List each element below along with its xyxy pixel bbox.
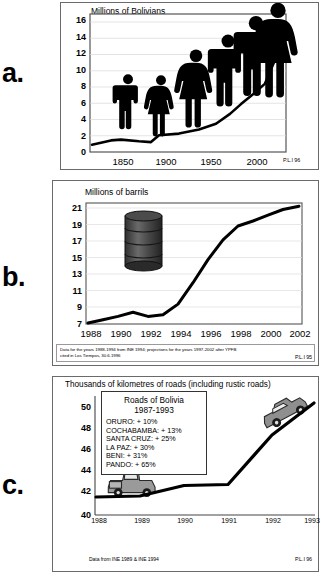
chart-a-x-ticks: 1850 1900 1950 2000 <box>112 156 267 167</box>
svg-text:1989: 1989 <box>134 517 150 524</box>
chart-c-x-ticks: 1988 1989 1990 1991 1992 1993 <box>91 517 320 524</box>
svg-text:15: 15 <box>72 253 82 263</box>
chart-b-footnote-box: Data for the years 1988-1994 from INE 19… <box>56 344 315 362</box>
inset-growth-list: ORURO: + 10% COCHABAMBA: + 13% SANTA CRU… <box>106 418 202 470</box>
svg-text:21: 21 <box>72 203 82 213</box>
chart-b-footnote-line2: cited in Los Tiempos, 30.6.1996 <box>60 353 120 359</box>
chart-b-credit: P.L.I 95 <box>295 354 312 360</box>
svg-text:1992: 1992 <box>265 517 281 524</box>
svg-text:2: 2 <box>81 131 86 141</box>
svg-text:48: 48 <box>81 423 91 433</box>
chart-b-frame <box>86 203 302 324</box>
chart-panel-a: Millions of Bolivians 16 14 12 10 8 6 4 … <box>60 2 319 170</box>
svg-text:1993: 1993 <box>304 517 320 524</box>
panel-label-a: a. <box>2 58 24 89</box>
svg-text:2002: 2002 <box>289 328 310 339</box>
chart-a-svg: 16 14 12 10 8 6 4 2 0 <box>61 3 320 171</box>
chart-b-x-ticks: 1988 1990 1992 1994 1996 1998 2000 2002 <box>80 328 310 339</box>
chart-a-plot: 16 14 12 10 8 6 4 2 0 <box>61 3 318 169</box>
chart-panel-c: Thousands of kilometres of roads (includ… <box>52 376 319 572</box>
svg-text:12: 12 <box>76 48 86 58</box>
svg-text:2000: 2000 <box>246 156 267 167</box>
svg-text:14: 14 <box>76 32 86 42</box>
chart-b-plot: 21 19 17 15 13 11 9 7 <box>53 181 318 365</box>
chart-b-svg: 21 19 17 15 13 11 9 7 <box>53 181 320 367</box>
svg-text:1996: 1996 <box>200 328 221 339</box>
svg-text:1850: 1850 <box>112 156 133 167</box>
chart-c-inset-box: Roads of Bolivia 1987-1993 ORURO: + 10% … <box>101 391 207 475</box>
panel-label-b: b. <box>2 262 25 293</box>
svg-text:44: 44 <box>81 465 91 475</box>
svg-text:19: 19 <box>72 220 82 230</box>
chart-b-footnote-line1: Data for the years 1988-1994 from INE 19… <box>60 347 236 353</box>
svg-text:46: 46 <box>81 444 91 454</box>
inset-item-pando: PANDO: + 65% <box>106 461 202 470</box>
svg-text:0: 0 <box>81 147 86 157</box>
svg-text:1988: 1988 <box>91 517 107 524</box>
chart-c-y-ticks: 50 48 46 44 42 40 <box>81 402 91 520</box>
svg-text:50: 50 <box>81 402 91 412</box>
oil-barrel-icon <box>125 211 162 271</box>
svg-text:16: 16 <box>76 15 86 25</box>
svg-text:1990: 1990 <box>110 328 131 339</box>
svg-text:1950: 1950 <box>200 156 221 167</box>
svg-text:1900: 1900 <box>155 156 176 167</box>
svg-text:7: 7 <box>77 319 82 329</box>
svg-text:42: 42 <box>81 486 91 496</box>
svg-text:1990: 1990 <box>177 517 193 524</box>
svg-text:1988: 1988 <box>80 328 101 339</box>
svg-text:9: 9 <box>77 302 82 312</box>
inset-heading-line1: Roads of Bolivia <box>106 395 202 405</box>
svg-text:17: 17 <box>72 236 82 246</box>
svg-text:1991: 1991 <box>221 517 237 524</box>
svg-text:1998: 1998 <box>230 328 251 339</box>
svg-text:1994: 1994 <box>170 328 191 339</box>
svg-text:40: 40 <box>81 510 91 520</box>
svg-text:1992: 1992 <box>140 328 161 339</box>
svg-text:10: 10 <box>76 65 86 75</box>
chart-a-y-ticks: 16 14 12 10 8 6 4 2 0 <box>76 15 86 157</box>
svg-text:11: 11 <box>72 286 82 296</box>
chart-c-credit: P.L.I 96 <box>295 556 312 562</box>
inset-heading-line2: 1987-1993 <box>106 405 202 415</box>
svg-text:13: 13 <box>72 269 82 279</box>
chart-b-y-ticks: 21 19 17 15 13 11 9 7 <box>72 203 82 329</box>
svg-text:4: 4 <box>81 114 86 124</box>
svg-text:6: 6 <box>81 98 86 108</box>
panel-label-c: c. <box>2 470 24 501</box>
chart-c-footnote: Data from INE 1989 & INE 1994 <box>89 557 159 563</box>
svg-text:2000: 2000 <box>260 328 281 339</box>
chart-panel-b: Millions of barrils 21 19 17 15 13 11 9 … <box>52 180 319 366</box>
svg-text:8: 8 <box>81 81 86 91</box>
chart-a-credit: P.L.I 96 <box>283 157 300 163</box>
